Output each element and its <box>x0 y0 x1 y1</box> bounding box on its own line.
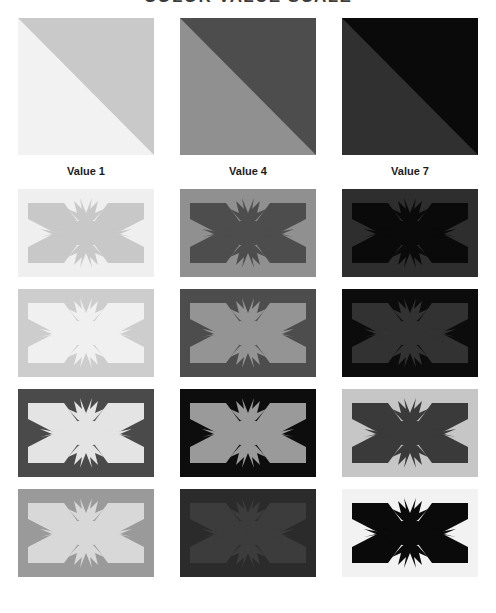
flag-row-4 <box>18 489 478 577</box>
flag-cell <box>18 289 154 377</box>
flag-swatch-r2c1 <box>18 289 154 377</box>
flag-swatch-r3c1 <box>18 389 154 477</box>
diagonal-swatch-row <box>18 18 478 155</box>
flag-cell <box>18 389 154 477</box>
flag-swatch-r1c1 <box>18 189 154 277</box>
flag-cell <box>180 389 316 477</box>
diagonal-swatch-value-1 <box>18 18 154 155</box>
page-title: COLOR VALUE SCALE <box>0 0 496 7</box>
flag-cell <box>342 389 478 477</box>
flag-swatch-r4c2 <box>180 489 316 577</box>
flag-cell <box>18 189 154 277</box>
flag-swatch-r3c3 <box>342 389 478 477</box>
flag-cell <box>180 189 316 277</box>
diagonal-swatch-value-7 <box>342 18 478 155</box>
flag-row-1 <box>18 189 478 277</box>
diagonal-swatch-value-4 <box>180 18 316 155</box>
flag-cell <box>342 189 478 277</box>
flag-cell <box>180 289 316 377</box>
flag-cell <box>18 489 154 577</box>
flag-swatch-r2c2 <box>180 289 316 377</box>
flag-row-3 <box>18 389 478 477</box>
flag-cell <box>342 489 478 577</box>
flag-row-2 <box>18 289 478 377</box>
flag-swatch-r2c3 <box>342 289 478 377</box>
flag-swatch-r3c2 <box>180 389 316 477</box>
flag-swatch-r4c1 <box>18 489 154 577</box>
page-root: COLOR VALUE SCALE <box>0 0 496 613</box>
column-label-value-4: Value 4 <box>180 165 316 177</box>
flag-swatch-r1c2 <box>180 189 316 277</box>
flag-swatch-r1c3 <box>342 189 478 277</box>
swatch-grid: Value 1 Value 4 Value 7 <box>0 18 496 577</box>
column-label-row: Value 1 Value 4 Value 7 <box>18 155 478 177</box>
column-label-value-7: Value 7 <box>342 165 478 177</box>
column-label-value-1: Value 1 <box>18 165 154 177</box>
diagonal-cell <box>18 18 154 155</box>
flag-cell <box>342 289 478 377</box>
flag-cell <box>180 489 316 577</box>
diagonal-cell <box>342 18 478 155</box>
flag-swatch-r4c3 <box>342 489 478 577</box>
diagonal-cell <box>180 18 316 155</box>
